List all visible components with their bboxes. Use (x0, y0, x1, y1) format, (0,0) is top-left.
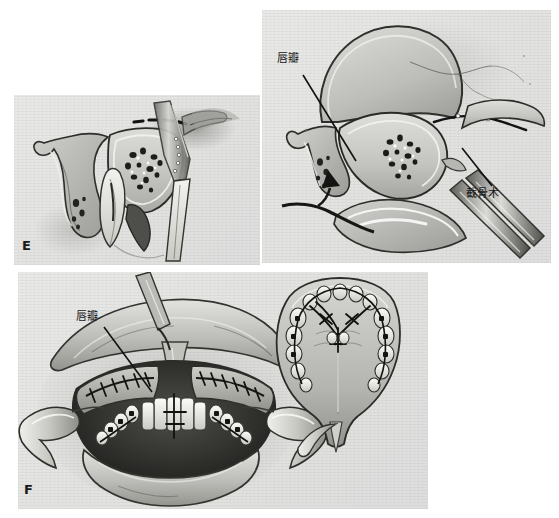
panel-e-plate (14, 95, 260, 265)
panel-e-artwork (14, 95, 260, 265)
panel-letter-e: E (22, 238, 31, 253)
label-lip-flap-bottom: 唇瓣 (76, 311, 98, 323)
panel-f-plate (18, 272, 428, 509)
panel-top-right-artwork (262, 10, 551, 263)
panel-letter-f: F (24, 482, 33, 497)
panel-f-artwork (18, 272, 428, 509)
label-lip-flap-top: 唇瓣 (277, 53, 299, 65)
label-osteotomy: 截骨术 (466, 188, 499, 200)
figure-container: 唇瓣 截骨术 唇瓣 E F (0, 0, 559, 518)
panel-top-right-plate (262, 10, 551, 263)
